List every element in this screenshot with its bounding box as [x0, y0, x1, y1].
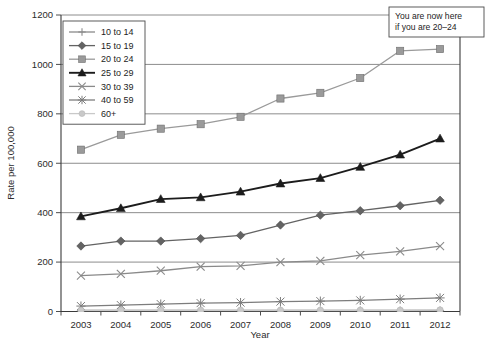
y-axis-title: Rate per 100,000 [5, 126, 16, 199]
data-point-marker [435, 293, 444, 302]
y-tick-label: 800 [37, 108, 53, 119]
data-point-marker [316, 297, 325, 306]
data-point-marker [357, 74, 364, 81]
callout-line: You are now here [395, 11, 462, 21]
data-point-marker [397, 47, 404, 54]
series-line [81, 139, 440, 217]
data-point-marker [197, 307, 203, 313]
x-tick-label: 2010 [350, 319, 371, 330]
data-point-marker [197, 121, 204, 128]
data-point-marker [196, 234, 204, 242]
data-point-marker [436, 134, 445, 142]
annotation-callout: You are now hereif you are 20–24 [389, 7, 484, 37]
y-tick-label: 400 [37, 207, 53, 218]
legend-item-label: 40 to 59 [101, 95, 134, 105]
y-tick-label: 600 [37, 158, 53, 169]
x-axis-ticks: 2003200420052006200720082009201020112012 [61, 312, 460, 330]
data-point-marker [236, 231, 244, 239]
x-tick-label: 2007 [230, 319, 251, 330]
y-axis-ticks: 020040060080010001200 [32, 9, 61, 317]
data-point-marker [276, 221, 284, 229]
data-point-marker [276, 297, 285, 306]
x-tick-label: 2012 [429, 319, 450, 330]
series-line [81, 200, 440, 246]
series-line [81, 298, 440, 306]
data-point-marker [356, 296, 365, 305]
x-tick-label: 2004 [110, 319, 131, 330]
x-axis-title: Year [250, 329, 269, 340]
data-point-marker [78, 96, 86, 104]
line-chart: 020040060080010001200 200320042005200620… [0, 0, 489, 342]
series-40-to-59 [76, 293, 444, 310]
data-point-marker [317, 307, 323, 313]
series-line [81, 246, 440, 276]
legend: 10 to 1415 to 1920 to 2425 to 2930 to 39… [63, 21, 145, 124]
data-point-marker [117, 131, 124, 138]
data-point-marker [396, 295, 405, 304]
legend-item-label: 10 to 14 [101, 27, 134, 37]
data-point-marker [277, 307, 283, 313]
data-point-marker [316, 211, 324, 219]
x-tick-label: 2009 [310, 319, 331, 330]
data-point-marker [397, 307, 403, 313]
data-point-marker [77, 242, 85, 250]
data-point-marker [396, 202, 404, 210]
data-point-marker [277, 95, 284, 102]
chart-container: 020040060080010001200 200320042005200620… [0, 0, 489, 342]
y-tick-label: 1000 [32, 59, 53, 70]
data-point-marker [437, 307, 443, 313]
legend-item-label: 25 to 29 [101, 68, 134, 78]
data-point-marker [357, 307, 363, 313]
x-tick-label: 2005 [150, 319, 171, 330]
legend-item-30-to-39[interactable]: 30 to 39 [69, 82, 134, 92]
x-tick-label: 2011 [390, 319, 410, 330]
data-point-marker [158, 307, 164, 313]
legend-item-label: 20 to 24 [101, 54, 134, 64]
data-point-marker [157, 237, 165, 245]
data-point-marker [77, 146, 84, 153]
data-point-marker [317, 89, 324, 96]
legend-item-40-to-59[interactable]: 40 to 59 [69, 95, 134, 105]
data-point-marker [157, 125, 164, 132]
callout-line: if you are 20–24 [395, 22, 457, 32]
data-point-marker [436, 45, 443, 52]
legend-item-label: 15 to 19 [101, 41, 134, 51]
series-30-to-39 [77, 242, 444, 280]
y-tick-label: 1200 [32, 9, 53, 20]
x-tick-label: 2006 [190, 319, 211, 330]
y-tick-label: 200 [37, 256, 53, 267]
y-tick-label: 0 [48, 306, 53, 317]
legend-item-label: 30 to 39 [101, 82, 134, 92]
data-point-marker [118, 307, 124, 313]
x-tick-label: 2003 [70, 319, 91, 330]
data-point-marker [79, 56, 86, 63]
series-15-to-19 [77, 196, 445, 250]
data-point-marker [237, 307, 243, 313]
data-point-marker [196, 298, 205, 307]
data-point-marker [79, 111, 85, 117]
data-point-marker [237, 113, 244, 120]
data-point-marker [117, 237, 125, 245]
legend-item-label: 60+ [101, 109, 116, 119]
x-tick-label: 2008 [270, 319, 291, 330]
data-point-marker [356, 206, 364, 214]
data-point-marker [78, 307, 84, 313]
data-point-marker [236, 298, 245, 307]
data-point-marker [436, 196, 444, 204]
